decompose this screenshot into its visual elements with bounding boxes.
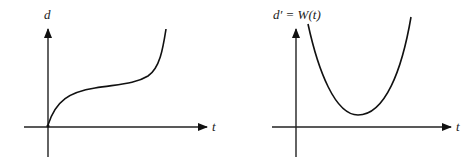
right-x-label: t [456, 119, 460, 134]
right-y-label: d′ = W(t) [273, 7, 321, 22]
right-curve [308, 17, 411, 115]
left-x-label: t [212, 119, 216, 134]
left-graph: d t [24, 7, 216, 157]
diagram-canvas: d t d′ = W(t) t [0, 0, 472, 167]
origin-point [46, 124, 49, 127]
right-graph: d′ = W(t) t [272, 7, 460, 157]
left-y-label: d [44, 7, 51, 22]
left-curve [48, 29, 166, 125]
